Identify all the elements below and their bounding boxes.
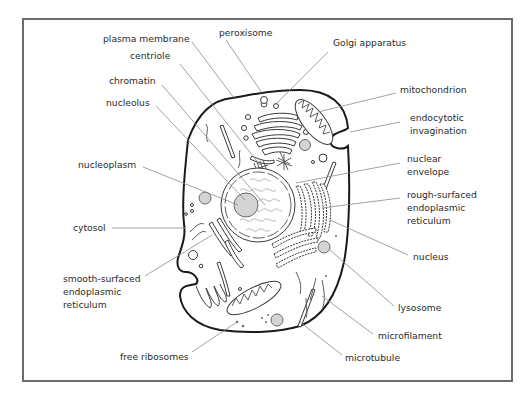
- lysosome-label: lysosome: [398, 302, 442, 313]
- mitochondrion-label: mitochondrion: [400, 84, 467, 95]
- nucleus-label: nucleus: [413, 251, 449, 262]
- nuclear-envelope-label: nuclearenvelope: [407, 153, 450, 177]
- nucleolus-label: nucleolus: [106, 97, 150, 108]
- microfilament-leader-line: [322, 296, 373, 334]
- microtubule-label: microtubule: [345, 352, 400, 363]
- rough-surfaced-endoplasmic-reticulum-label: rough-surfacedendoplasmicreticulum: [407, 189, 477, 226]
- microtubule-leader-line: [300, 322, 342, 355]
- peroxisome-leader-line: [226, 40, 262, 93]
- lysosome-upper: [300, 140, 311, 151]
- endocytotic-invagination-leader-line: [350, 122, 400, 132]
- cytosol-label: cytosol: [73, 222, 106, 233]
- golgi-apparatus-label: Golgi apparatus: [333, 37, 406, 48]
- animal-cell-diagram: plasma membranecentriolechromatinnucleol…: [0, 0, 530, 396]
- smooth-surfaced-endoplasmic-reticulum-label: smooth-surfacedendoplasmicreticulum: [63, 273, 141, 310]
- microfilament-label: microfilament: [378, 330, 442, 341]
- endocytotic-invagination-label: endocytoticinvagination: [410, 112, 467, 136]
- chromatin-label: chromatin: [109, 75, 156, 86]
- nucleus: [221, 168, 295, 242]
- lysosome-right: [318, 241, 330, 253]
- nucleoplasm-label: nucleoplasm: [78, 159, 136, 170]
- centriole-label: centriole: [130, 50, 171, 61]
- plasma-membrane-label: plasma membrane: [103, 33, 190, 44]
- lysosome-bottom: [271, 314, 283, 326]
- peroxisome-label: peroxisome: [219, 27, 273, 38]
- free-ribosomes-label: free ribosomes: [120, 351, 189, 362]
- plasma-membrane-leader-line: [192, 42, 234, 98]
- peroxisome: [261, 97, 268, 104]
